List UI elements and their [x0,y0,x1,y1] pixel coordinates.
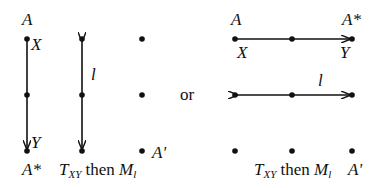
label-A: A [230,10,242,29]
left-diagram: A X Y A* l A' TXY then Ml [21,10,166,180]
point [24,92,30,98]
point [349,92,355,98]
point [289,36,295,42]
point [232,36,238,42]
label-l: l [318,71,323,90]
or-connector: or [180,85,195,104]
label-A-star: A* [21,160,41,179]
point [289,148,295,154]
point [232,92,238,98]
point [24,36,30,42]
point [139,36,145,42]
glide-reflection-diagram: A X Y A* l A' TXY then Ml or A A* X Y l … [0,0,384,188]
point [232,148,238,154]
point [24,148,30,154]
point [79,36,85,42]
label-A-prime: A' [151,143,166,162]
label-A: A [21,10,33,29]
label-l: l [91,65,96,84]
left-caption: TXY then Ml [59,160,136,180]
point [79,92,85,98]
point [139,92,145,98]
label-X: X [236,43,248,62]
label-Y: Y [31,133,42,152]
label-A-star: A* [341,10,361,29]
point [139,148,145,154]
point [349,36,355,42]
right-diagram: A A* X Y l A' TXY then Ml [230,10,362,180]
right-caption: TXY then Ml [254,160,331,180]
label-X: X [30,35,42,54]
label-Y: Y [340,43,351,62]
point [349,148,355,154]
label-A-prime: A' [347,160,362,179]
point [289,92,295,98]
point [79,148,85,154]
